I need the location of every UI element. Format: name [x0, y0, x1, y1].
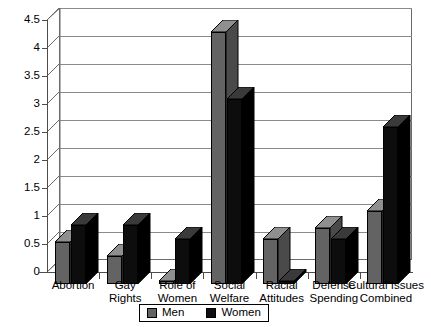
- men-color-swatch: [147, 308, 157, 318]
- y-axis-tick-label: 1.5: [8, 182, 40, 193]
- bar-3d-extrusion: [383, 115, 412, 286]
- bar-3d-extrusion: [331, 227, 360, 286]
- bar-3d-extrusion: [175, 227, 204, 286]
- legend-label-women: Women: [221, 306, 260, 319]
- y-axis-tick-label: 3: [8, 98, 40, 109]
- bar-women: [227, 87, 254, 284]
- bar-women: [123, 213, 150, 284]
- y-axis-tick-label: 2: [8, 154, 40, 165]
- bar-women: [71, 213, 98, 284]
- x-axis-tick-mark: [256, 272, 257, 279]
- gridline: [59, 8, 412, 9]
- bar-3d-extrusion: [123, 213, 152, 286]
- bar-chart: 00.511.522.533.544.5 AbortionGay RightsR…: [0, 0, 431, 327]
- bar-3d-extrusion: [71, 213, 100, 286]
- women-color-swatch: [206, 308, 216, 318]
- x-axis-tick-mark: [308, 272, 309, 279]
- legend-item-men: Men: [147, 306, 184, 319]
- x-axis-tick-mark: [203, 272, 204, 279]
- x-axis-tick-mark: [151, 272, 152, 279]
- y-axis-tick-label: 1: [8, 210, 40, 221]
- y-axis-tick-label: 2.5: [8, 126, 40, 137]
- x-axis-tick-mark: [360, 272, 361, 279]
- y-axis-line: [47, 20, 48, 273]
- legend-label-men: Men: [162, 306, 184, 319]
- bar-women: [175, 227, 202, 284]
- y-axis-tick-label: 4.5: [8, 14, 40, 25]
- y-axis-tick-label: 0: [8, 266, 40, 277]
- bar-women: [383, 115, 410, 284]
- bar-women: [331, 227, 358, 284]
- bar-3d-extrusion: [227, 87, 256, 286]
- x-axis-label: Cultural Issues Combined: [342, 279, 430, 305]
- chart-legend: Men Women: [139, 304, 269, 322]
- y-axis-tick-label: 0.5: [8, 238, 40, 249]
- y-axis-tick-label: 4: [8, 42, 40, 53]
- plot-area: [47, 20, 412, 272]
- legend-item-women: Women: [206, 306, 260, 319]
- y-axis-tick-label: 3.5: [8, 70, 40, 81]
- x-axis-tick-mark: [99, 272, 100, 279]
